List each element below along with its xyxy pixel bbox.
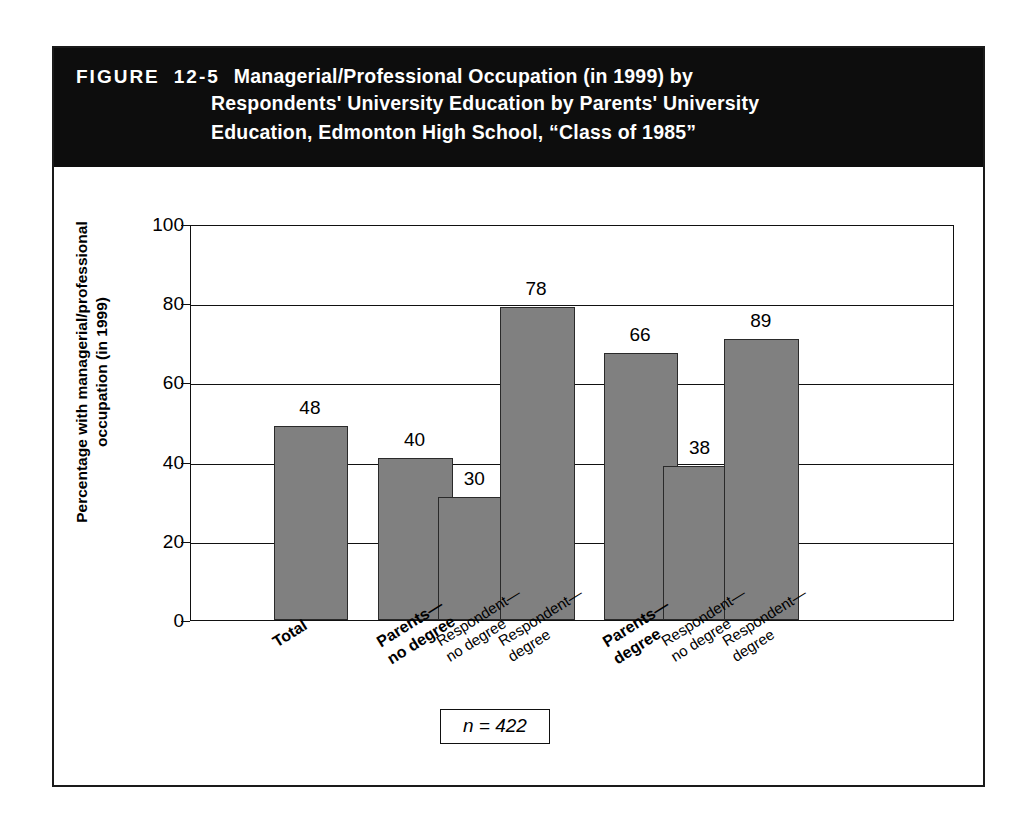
figure-title-line-3: Education, Edmonton High School, “Class …: [211, 118, 961, 147]
y-axis-tick-label: 40: [138, 452, 184, 474]
bar-value-label: 78: [526, 278, 547, 300]
figure-title-remaining-rows: Respondents' University Education by Par…: [211, 89, 961, 147]
figure-title-line-2: Respondents' University Education by Par…: [211, 89, 961, 118]
gridline: [191, 305, 953, 306]
y-axis-tick-label: 20: [138, 531, 184, 553]
bar-value-label: 48: [299, 397, 320, 419]
figure-label: FIGURE: [76, 66, 160, 88]
bar-value-label: 40: [404, 429, 425, 451]
bar-value-label: 66: [629, 324, 650, 346]
figure-title-band: FIGURE 12-5 Managerial/Professional Occu…: [54, 48, 983, 167]
y-axis-tick-label: 60: [138, 372, 184, 394]
figure-number: 12-5: [174, 66, 220, 88]
bar-value-label: 30: [464, 468, 485, 490]
figure-card: FIGURE 12-5 Managerial/Professional Occu…: [52, 46, 985, 787]
y-axis-title-line-1: Percentage with managerial/professional: [72, 172, 92, 572]
figure-title-line-1: Managerial/Professional Occupation (in 1…: [234, 62, 693, 91]
y-axis-tick-label: 0: [138, 610, 184, 632]
bar-value-label: 89: [750, 310, 771, 332]
bar-value-label: 38: [689, 437, 710, 459]
y-axis-title-line-2: occupation (in 1999): [92, 172, 112, 572]
chart-plot-region: Percentage with managerial/professional …: [54, 167, 983, 787]
sample-size-box: n = 422: [440, 709, 550, 744]
bar: [724, 339, 799, 620]
y-axis-title: Percentage with managerial/professional …: [72, 172, 112, 572]
bar: [500, 307, 575, 620]
plot-frame: [190, 225, 954, 621]
y-axis-tick-label: 80: [138, 293, 184, 315]
bar: [274, 426, 349, 620]
y-axis-tick-labels: 020406080100: [138, 167, 184, 787]
figure-title-first-row: FIGURE 12-5 Managerial/Professional Occu…: [76, 62, 961, 91]
y-axis-tick-label: 100: [138, 214, 184, 236]
